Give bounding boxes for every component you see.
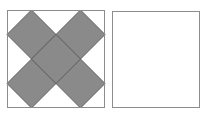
right-panel [113, 12, 200, 108]
figure-container: Two squares: left square tiled with five… [0, 0, 208, 116]
figure-svg [0, 0, 208, 116]
left-panel [7, 10, 105, 108]
right-square-outline [113, 12, 200, 108]
